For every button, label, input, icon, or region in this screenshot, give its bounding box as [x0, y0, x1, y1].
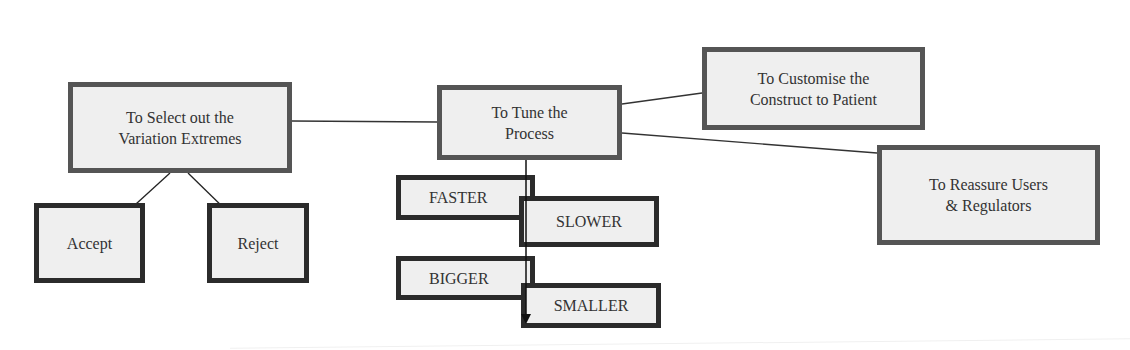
- tune-down-arrow: [0, 0, 1128, 350]
